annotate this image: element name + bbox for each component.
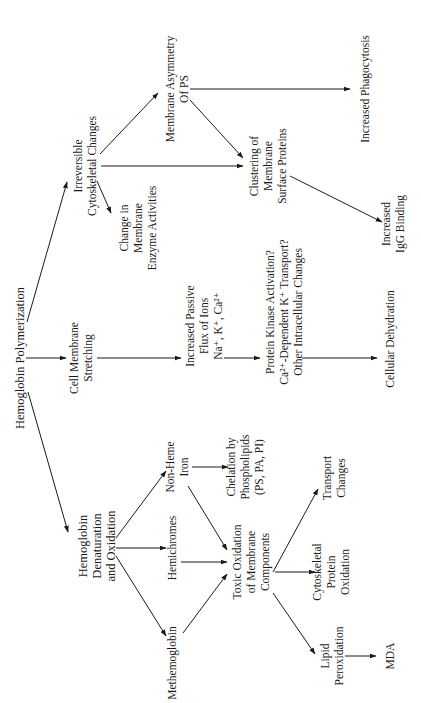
node-increased-igg-binding: Increased IgG Binding bbox=[380, 195, 407, 253]
node-lipid-peroxidation: Lipid Peroxidation bbox=[319, 626, 345, 685]
svg-text:Cellular Dehydration: Cellular Dehydration bbox=[384, 290, 397, 388]
node-hemichromes: Hemichromes bbox=[166, 515, 178, 580]
svg-text:Na⁺, K⁺, Ca²⁺: Na⁺, K⁺, Ca²⁺ bbox=[212, 292, 225, 360]
svg-text:Denaturation: Denaturation bbox=[90, 513, 104, 579]
svg-text:Hemoglobin: Hemoglobin bbox=[76, 514, 90, 577]
svg-text:Hemoglobin Polymerization: Hemoglobin Polymerization bbox=[13, 286, 27, 429]
node-cytoskeletal-protein-oxidation: Cytoskeletal Protein Oxidation bbox=[311, 543, 351, 601]
node-increased-passive-flux: Increased Passive Flux of Ions Na⁺, K⁺, … bbox=[184, 285, 225, 366]
node-irreversible-cytoskeletal: Irreversible Cytoskeletal Changes bbox=[72, 115, 99, 215]
svg-text:Increased Passive: Increased Passive bbox=[184, 285, 196, 366]
svg-text:Cell Membrane: Cell Membrane bbox=[68, 322, 80, 394]
edge-methb-toxic bbox=[183, 574, 227, 633]
svg-text:Non-Heme: Non-Heme bbox=[164, 441, 176, 492]
edge-hbpoly-irrev bbox=[27, 182, 67, 322]
svg-text:Components: Components bbox=[259, 532, 272, 591]
svg-text:Membrane: Membrane bbox=[262, 141, 274, 191]
svg-text:Changes: Changes bbox=[335, 458, 348, 498]
node-mda: MDA bbox=[384, 642, 396, 670]
svg-text:MDA: MDA bbox=[384, 642, 396, 670]
svg-text:Enzyme Activities: Enzyme Activities bbox=[146, 185, 159, 270]
edge-cluster-igg bbox=[290, 176, 382, 222]
node-cellular-dehydration: Cellular Dehydration bbox=[384, 290, 397, 388]
svg-text:Lipid: Lipid bbox=[319, 643, 332, 668]
svg-text:Increased Phagocytosis: Increased Phagocytosis bbox=[359, 35, 372, 143]
node-non-heme-iron: Non-Heme Iron bbox=[164, 441, 190, 492]
svg-text:Clustering of: Clustering of bbox=[248, 136, 261, 197]
edge-hbpoly-denat bbox=[28, 392, 68, 532]
svg-text:Toxic Oxidation: Toxic Oxidation bbox=[231, 524, 243, 599]
svg-text:Ca²⁺-Dependent K⁺ Transport?: Ca²⁺-Dependent K⁺ Transport? bbox=[278, 239, 291, 384]
edge-nonheme-toxic bbox=[188, 486, 227, 550]
node-cell-membrane-stretching: Cell Membrane Stretching bbox=[68, 322, 95, 394]
svg-text:Methemoglobin: Methemoglobin bbox=[166, 626, 179, 700]
svg-text:Iron: Iron bbox=[178, 457, 190, 476]
svg-text:Surface Proteins: Surface Proteins bbox=[276, 128, 288, 204]
svg-text:Other Intracellular Changes: Other Intracellular Changes bbox=[292, 248, 305, 376]
svg-text:Transport: Transport bbox=[321, 455, 334, 500]
edge-denat-methb bbox=[116, 556, 166, 636]
node-toxic-oxidation: Toxic Oxidation of Membrane Components bbox=[231, 524, 272, 599]
flow-diagram: Hemoglobin Polymerization Irreversible C… bbox=[0, 0, 421, 703]
edge-irrev-asym bbox=[100, 93, 158, 154]
svg-text:(PS, PA, PI): (PS, PA, PI) bbox=[253, 439, 266, 495]
svg-text:Change in: Change in bbox=[118, 204, 131, 251]
edge-asym-cluster bbox=[190, 100, 243, 158]
svg-text:Flux of Ions: Flux of Ions bbox=[198, 297, 210, 354]
node-membrane-asymmetry: Membrane Asymmetry Of PS bbox=[164, 36, 190, 143]
svg-text:Increased: Increased bbox=[380, 202, 392, 246]
node-chelation-phospholipids: Chelation by Phospholipids (PS, PA, PI) bbox=[225, 434, 266, 500]
svg-text:Of PS: Of PS bbox=[178, 75, 190, 103]
node-hemoglobin-polymerization: Hemoglobin Polymerization bbox=[13, 286, 27, 429]
svg-text:Chelation by: Chelation by bbox=[225, 437, 238, 496]
node-methemoglobin: Methemoglobin bbox=[166, 626, 179, 700]
svg-text:Hemichromes: Hemichromes bbox=[166, 515, 178, 580]
svg-text:of Membrane: of Membrane bbox=[245, 531, 257, 593]
node-protein-kinase: Protein Kinase Activation? Ca²⁺-Dependen… bbox=[264, 239, 305, 384]
svg-text:and Oxidation: and Oxidation bbox=[104, 510, 118, 582]
svg-text:Oxidation: Oxidation bbox=[339, 549, 351, 595]
svg-text:Membrane: Membrane bbox=[132, 203, 144, 253]
node-change-membrane-enzyme: Change in Membrane Enzyme Activities bbox=[118, 185, 159, 270]
svg-text:Cytoskeletal Changes: Cytoskeletal Changes bbox=[86, 115, 99, 215]
svg-text:Protein Kinase Activation?: Protein Kinase Activation? bbox=[264, 250, 276, 374]
nodes: Hemoglobin Polymerization Irreversible C… bbox=[13, 35, 407, 700]
edge-toxic-lipid bbox=[273, 593, 315, 654]
node-hb-denaturation-oxidation: Hemoglobin Denaturation and Oxidation bbox=[76, 510, 118, 582]
node-increased-phagocytosis: Increased Phagocytosis bbox=[359, 35, 372, 143]
svg-text:Stretching: Stretching bbox=[82, 334, 95, 382]
svg-text:Cytoskeletal: Cytoskeletal bbox=[311, 543, 324, 601]
svg-text:Phospholipids: Phospholipids bbox=[239, 434, 252, 500]
edge-irrev-change bbox=[97, 181, 111, 213]
node-transport-changes: Transport Changes bbox=[321, 455, 348, 500]
svg-text:IgG Binding: IgG Binding bbox=[394, 195, 407, 253]
edge-denat-nonheme bbox=[116, 471, 166, 538]
svg-text:Irreversible: Irreversible bbox=[72, 140, 84, 193]
svg-text:Membrane Asymmetry: Membrane Asymmetry bbox=[164, 36, 177, 143]
svg-text:Protein: Protein bbox=[325, 555, 337, 588]
node-clustering-surface-proteins: Clustering of Membrane Surface Proteins bbox=[248, 128, 288, 204]
svg-text:Peroxidation: Peroxidation bbox=[333, 626, 345, 685]
